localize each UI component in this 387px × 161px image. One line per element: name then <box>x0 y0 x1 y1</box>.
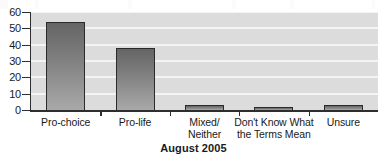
y-axis-tick-label: 40 <box>9 39 21 50</box>
x-axis-title: August 2005 <box>0 142 387 154</box>
y-axis-tick-marks <box>22 12 30 110</box>
y-axis-tick-label: 60 <box>9 7 21 18</box>
x-axis-category-labels: Pro-choicePro-lifeMixed/ NeitherDon't Kn… <box>31 117 378 141</box>
y-axis-tick-label: 50 <box>9 23 21 34</box>
bars-series <box>31 12 378 110</box>
scan-artifact <box>0 0 387 9</box>
y-axis-tick-label: 0 <box>15 105 21 116</box>
y-axis-tick-mark <box>22 12 30 13</box>
y-axis-tick-mark <box>22 28 30 29</box>
y-axis-tick-mark <box>22 61 30 62</box>
bar <box>116 48 155 110</box>
y-axis-tick-mark <box>22 110 30 111</box>
y-axis-tick-label: 30 <box>9 56 21 67</box>
y-axis-tick-mark <box>22 45 30 46</box>
bar-chart-figure: 6050403020100 Pro-choicePro-lifeMixed/ N… <box>0 0 387 161</box>
plot-area <box>31 12 378 110</box>
y-axis-tick-label: 10 <box>9 88 21 99</box>
x-axis-divider <box>170 111 171 116</box>
y-axis-tick-label: 20 <box>9 72 21 83</box>
y-axis-tick-mark <box>22 77 30 78</box>
x-axis-divider <box>100 111 101 116</box>
y-axis-tick-mark <box>22 94 30 95</box>
y-axis-tick-labels: 6050403020100 <box>0 12 21 110</box>
bar <box>46 22 85 110</box>
x-axis-category-label: Unsure <box>292 117 387 129</box>
